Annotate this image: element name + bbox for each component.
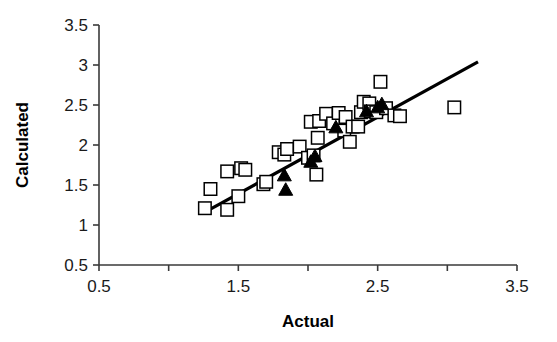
y-tick-label: 1.5	[64, 176, 88, 195]
x-tick-labels: 0.51.52.53.5	[87, 277, 529, 296]
x-tick-label: 1.5	[227, 277, 251, 296]
data-point-square	[221, 204, 234, 217]
x-axis-title: Actual	[282, 312, 334, 331]
data-point-square	[310, 168, 323, 181]
y-tick-label: 1	[79, 216, 88, 235]
data-point-triangle	[279, 183, 293, 196]
y-tick-labels: 0.511.522.533.5	[64, 16, 88, 275]
y-tick-label: 3	[79, 56, 88, 75]
x-tick-label: 3.5	[505, 277, 529, 296]
scatter-chart: 0.51.52.53.5 0.511.522.533.5 Actual Calc…	[0, 0, 557, 342]
data-point-square	[199, 202, 212, 215]
data-point-square	[232, 190, 245, 203]
data-point-square	[394, 110, 407, 123]
data-point-square	[448, 101, 461, 114]
y-tick-label: 3.5	[64, 16, 88, 35]
x-tick-label: 2.5	[366, 277, 390, 296]
axes	[99, 25, 517, 265]
data-point-square	[221, 165, 234, 178]
data-point-square	[344, 136, 357, 149]
y-axis-title: Calculated	[13, 102, 32, 188]
data-point-square	[281, 143, 294, 156]
data-point-square	[352, 120, 365, 133]
y-tick-label: 2.5	[64, 96, 88, 115]
y-tick-label: 2	[79, 136, 88, 155]
data-point-square	[260, 176, 273, 189]
data-point-square	[239, 164, 252, 177]
data-point-square	[374, 76, 387, 89]
plot-canvas: 0.51.52.53.5 0.511.522.533.5 Actual Calc…	[0, 0, 557, 342]
data-point-square	[204, 183, 217, 196]
data-point-square	[312, 132, 325, 145]
x-tick-label: 0.5	[87, 277, 111, 296]
y-tick-label: 0.5	[64, 256, 88, 275]
open-square-markers	[199, 76, 461, 217]
